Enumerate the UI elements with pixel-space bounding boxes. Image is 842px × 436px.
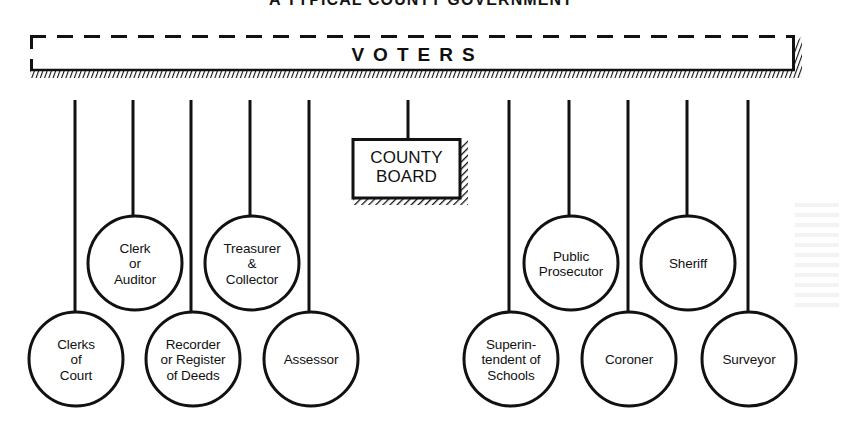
label-clerks-of-court: Clerks of Court	[29, 337, 123, 383]
page-showthrough-smudge	[795, 203, 839, 307]
county-government-org-chart: A TYPICAL COUNTY GOVERNMENT	[0, 0, 842, 436]
county-board-line1: COUNTY	[370, 148, 442, 167]
label-coroner: Coroner	[582, 352, 676, 367]
label-assessor: Assessor	[264, 352, 358, 367]
county-board-line2: BOARD	[376, 167, 437, 186]
label-treasurer-collector: Treasurer & Collector	[203, 241, 301, 287]
label-public-prosecutor: Public Prosecutor	[522, 249, 620, 280]
county-board-label: COUNTYBOARD	[353, 148, 460, 186]
voters-label: VOTERS	[30, 44, 796, 66]
label-surveyor: Surveyor	[702, 352, 796, 367]
label-superintendent-of-schools: Superin- tendent of Schools	[462, 337, 560, 383]
label-sheriff: Sheriff	[641, 256, 735, 271]
label-recorder-register-of-deeds: Recorder or Register of Deeds	[143, 337, 243, 383]
label-clerk-or-auditor: Clerk or Auditor	[88, 241, 182, 287]
